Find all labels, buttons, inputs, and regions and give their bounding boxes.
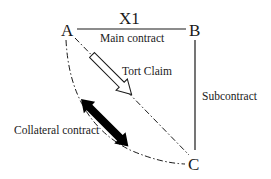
node-a-label: A [61,22,73,39]
collateral-contract-label: Collateral contract [14,125,99,137]
node-b-label: B [189,22,200,39]
tort-claim-label: Tort Claim [122,66,172,78]
subcontract-label: Subcontract [202,91,257,103]
node-c-label: C [188,156,199,173]
main-contract-label: Main contract [100,33,164,45]
diagram-title: X1 [119,10,140,27]
collateral-contract-double-arrow-icon [75,93,134,152]
